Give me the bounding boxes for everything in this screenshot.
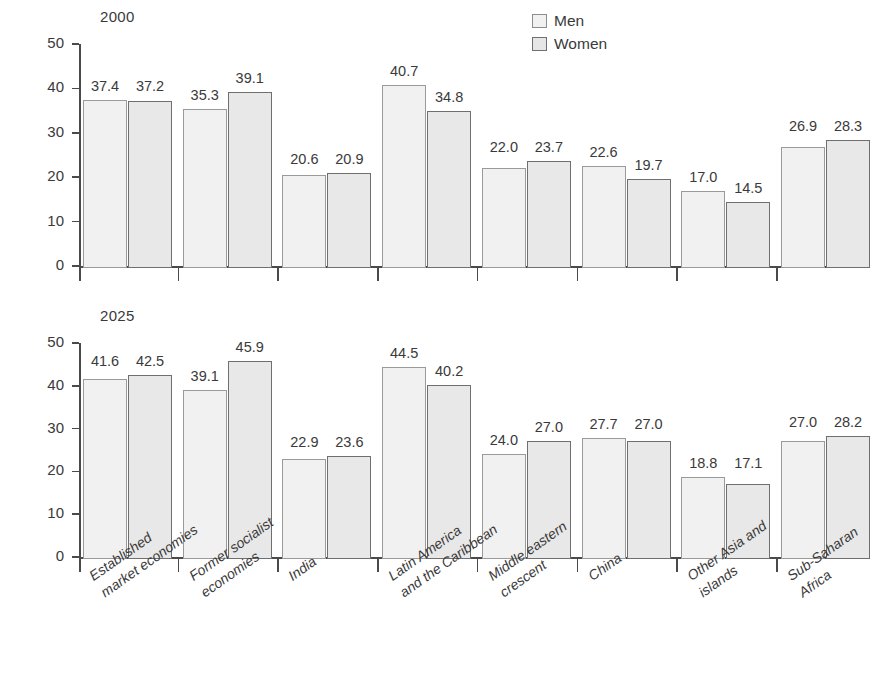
bar-women[interactable] [627, 441, 671, 558]
y-tick-label: 20 [34, 461, 64, 478]
legend-swatch-women-icon [532, 37, 547, 51]
bar-value-label: 39.1 [177, 368, 233, 384]
legend-item-women[interactable]: Women [532, 35, 607, 53]
bar-value-label: 45.9 [222, 339, 278, 355]
group-separator-tick [776, 559, 778, 572]
y-axis-line [79, 343, 81, 559]
y-tick [72, 513, 79, 515]
panel-title-2025: 2025 [100, 307, 135, 324]
legend-label-men: Men [554, 12, 584, 30]
y-tick-label: 40 [34, 376, 64, 393]
y-tick [72, 556, 79, 558]
legend-label-women: Women [554, 35, 607, 53]
y-tick [72, 428, 79, 430]
bar-value-label: 40.2 [421, 363, 477, 379]
y-tick-label: 10 [34, 504, 64, 521]
group-separator-tick [477, 559, 479, 572]
bar-value-label: 27.0 [621, 416, 677, 432]
y-tick [72, 471, 79, 473]
group-separator-tick [178, 559, 180, 572]
legend: Men Women [532, 12, 692, 62]
bar-value-label: 42.5 [122, 353, 178, 369]
bar-value-label: 23.6 [321, 434, 377, 450]
group-separator-tick [676, 559, 678, 572]
y-tick-label: 50 [34, 333, 64, 350]
y-tick [72, 385, 79, 387]
bar-value-label: 17.1 [720, 455, 776, 471]
y-tick [72, 342, 79, 344]
bar-men[interactable] [282, 459, 326, 559]
group-separator-tick [577, 559, 579, 572]
bar-men[interactable] [382, 367, 426, 559]
bar-women[interactable] [327, 456, 371, 559]
legend-item-men[interactable]: Men [532, 12, 584, 30]
bar-men[interactable] [582, 438, 626, 558]
y-tick-label: 30 [34, 419, 64, 436]
group-separator-tick [377, 559, 379, 572]
bar-men[interactable] [83, 379, 127, 559]
bar-men[interactable] [781, 441, 825, 558]
group-separator-tick [277, 559, 279, 572]
y-tick-label: 0 [34, 547, 64, 564]
legend-swatch-men-icon [532, 14, 547, 28]
group-separator-tick [79, 559, 81, 572]
bar-value-label: 44.5 [376, 345, 432, 361]
bar-value-label: 27.0 [521, 419, 577, 435]
bar-value-label: 28.2 [820, 414, 874, 430]
